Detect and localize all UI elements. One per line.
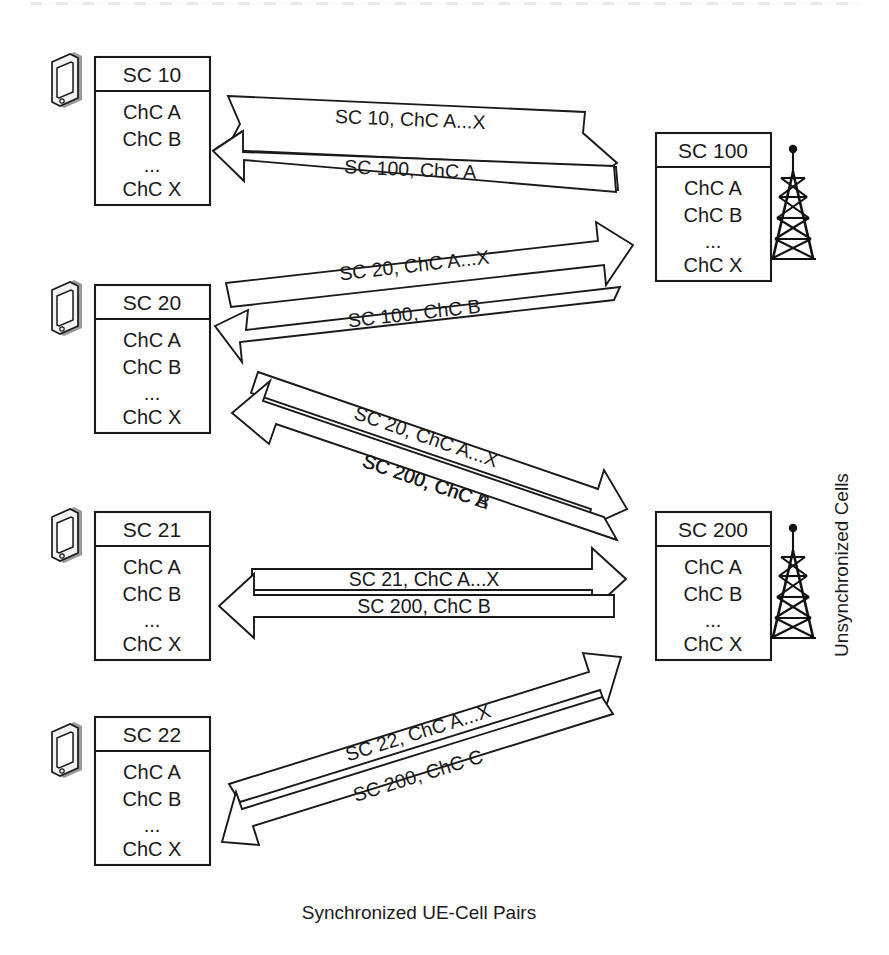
ue-box-sc22-item-0: ChC A — [123, 761, 181, 783]
right-axis-label: Unsynchronized Cells — [831, 473, 852, 657]
downlink-label-sc100-b: SC 100, ChC B — [347, 295, 482, 332]
ue-box-sc21-item-0: ChC A — [123, 556, 181, 578]
cell-box-sc200-item-2: ... — [705, 609, 722, 631]
flow-sc20-sc200: SC 20, ChC A...X SC 200, ChC B SC 200, C… — [232, 372, 627, 540]
cell-box-sc200-item-0: ChC A — [684, 556, 742, 578]
cell-box-sc200-title: SC 200 — [678, 518, 748, 541]
ue-box-sc21-item-3: ChC X — [123, 633, 182, 655]
cell-box-sc100-item-2: ... — [705, 230, 722, 252]
cell-box-sc100-item-1: ChC B — [684, 204, 743, 226]
flow-sc10-sc100: SC 10, ChC A...X SC 100, ChC A — [213, 96, 618, 192]
ue-box-sc22-item-2: ... — [144, 814, 161, 836]
scan-artifact-bar — [30, 2, 860, 5]
ue-box-sc22-title: SC 22 — [123, 723, 181, 746]
ue-box-sc20-item-2: ... — [144, 382, 161, 404]
ue-box-sc22[interactable]: SC 22 ChC A ChC B ... ChC X — [95, 717, 210, 865]
cell-box-sc100-item-0: ChC A — [684, 177, 742, 199]
mobile-device-icon-3 — [52, 507, 82, 563]
ue-box-sc20-item-3: ChC X — [123, 406, 182, 428]
cell-tower-icon-2 — [770, 524, 816, 638]
downlink-label-sc100-a: SC 100, ChC A — [344, 155, 477, 182]
ue-box-sc20[interactable]: SC 20 ChC A ChC B ... ChC X — [95, 285, 210, 433]
flow-sc21-sc200: SC 21, ChC A...X SC 200, ChC B — [219, 548, 626, 638]
cell-tower-icon-1 — [770, 145, 816, 259]
cell-box-sc100-item-3: ChC X — [684, 254, 743, 276]
ue-box-sc10-item-1: ChC B — [123, 128, 182, 150]
cell-box-sc200-item-1: ChC B — [684, 583, 743, 605]
mobile-device-icon-1 — [52, 52, 82, 108]
ue-box-sc20-item-1: ChC B — [123, 356, 182, 378]
ue-box-sc21-item-2: ... — [144, 609, 161, 631]
ue-box-sc20-item-0: ChC A — [123, 329, 181, 351]
ue-box-sc10-item-2: ... — [144, 154, 161, 176]
ue-box-sc10-item-0: ChC A — [123, 101, 181, 123]
ue-box-sc20-title: SC 20 — [123, 291, 181, 314]
network-topology-diagram: SC 10, ChC A...X SC 100, ChC A SC 20, Ch… — [0, 0, 889, 955]
bottom-axis-label: Synchronized UE-Cell Pairs — [302, 902, 536, 923]
ue-box-sc21-title: SC 21 — [123, 518, 181, 541]
ue-box-sc21-item-1: ChC B — [123, 583, 182, 605]
ue-box-sc10[interactable]: SC 10 ChC A ChC B ... ChC X — [95, 57, 210, 205]
mobile-device-icon-2 — [52, 280, 82, 336]
ue-box-sc22-item-3: ChC X — [123, 838, 182, 860]
ue-box-sc10-title: SC 10 — [123, 63, 181, 86]
cell-box-sc100-title: SC 100 — [678, 139, 748, 162]
diagram-canvas: SC 10, ChC A...X SC 100, ChC A SC 20, Ch… — [0, 0, 889, 955]
flow-sc22-sc200: SC 22, ChC A...X SC 200, ChC C — [222, 653, 621, 845]
downlink-label-sc200-b: SC 200, ChC B — [357, 595, 490, 617]
ue-box-sc22-item-1: ChC B — [123, 788, 182, 810]
mobile-device-icon-4 — [52, 722, 82, 778]
cell-box-sc100[interactable]: SC 100 ChC A ChC B ... ChC X — [656, 133, 771, 281]
ue-box-sc10-item-3: ChC X — [123, 178, 182, 200]
cell-box-sc200-item-3: ChC X — [684, 633, 743, 655]
cell-box-sc200[interactable]: SC 200 ChC A ChC B ... ChC X — [656, 512, 771, 660]
flow-sc20-sc100: SC 20, ChC A...X SC 100, ChC B — [215, 222, 633, 362]
uplink-label-sc21: SC 21, ChC A...X — [349, 568, 500, 590]
ue-box-sc21[interactable]: SC 21 ChC A ChC B ... ChC X — [95, 512, 210, 660]
